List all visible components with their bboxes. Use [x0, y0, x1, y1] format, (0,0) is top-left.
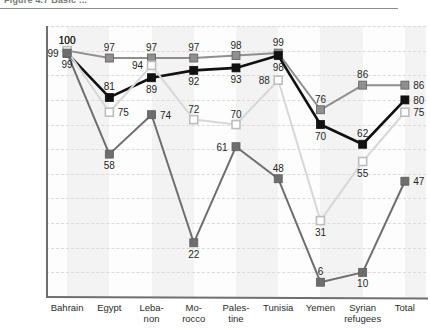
data-value-label: 97 — [188, 42, 199, 53]
data-value-label: 6 — [318, 266, 324, 277]
data-value-label: 75 — [413, 107, 424, 118]
data-value-label: 70 — [315, 130, 326, 141]
series-light-gray-marker[interactable] — [148, 61, 156, 69]
series-dark-gray-marker[interactable] — [274, 175, 282, 183]
data-value-label: 74 — [160, 109, 171, 120]
data-value-label: 99 — [48, 48, 59, 59]
series-medium-gray-marker[interactable] — [401, 81, 409, 89]
data-value-label: 98 — [230, 39, 241, 50]
series-black-marker[interactable] — [105, 93, 113, 101]
data-value-label: 31 — [315, 226, 326, 237]
data-value-label: 80 — [413, 94, 424, 105]
data-value-label: 97 — [146, 42, 157, 53]
data-value-label: 22 — [188, 248, 199, 259]
series-black-marker[interactable] — [316, 121, 324, 129]
series-medium-gray-marker[interactable] — [190, 54, 198, 62]
series-dark-gray-marker[interactable] — [105, 150, 113, 158]
series-dark-gray-marker[interactable] — [401, 177, 409, 185]
data-value-label: 92 — [188, 76, 199, 87]
data-value-label: 88 — [259, 75, 270, 86]
series-dark-gray-line — [67, 53, 405, 282]
series-black-marker[interactable] — [148, 74, 156, 82]
data-value-label: 47 — [413, 176, 424, 187]
series-light-gray-marker[interactable] — [274, 76, 282, 84]
series-dark-gray-marker[interactable] — [190, 239, 198, 247]
data-value-label: 10 — [357, 278, 368, 289]
line-chart: 0102030405060708090100110 BahrainEgyptLe… — [0, 0, 430, 329]
data-value-label: 48 — [273, 162, 284, 173]
series-light-gray-marker[interactable] — [232, 121, 240, 129]
data-value-label: 75 — [118, 107, 129, 118]
data-value-label: 70 — [230, 108, 241, 119]
data-value-label: 61 — [216, 141, 227, 152]
series-medium-gray-marker[interactable] — [316, 106, 324, 114]
series-dark-gray-marker[interactable] — [232, 143, 240, 151]
series-light-gray-marker[interactable] — [359, 158, 367, 166]
data-value-label: 89 — [146, 83, 157, 94]
series-light-gray-marker[interactable] — [401, 108, 409, 116]
series-light-gray-marker[interactable] — [105, 108, 113, 116]
data-value-label: 76 — [315, 93, 326, 104]
data-value-label: 86 — [357, 69, 368, 80]
series-light-gray-marker[interactable] — [316, 217, 324, 225]
series-dark-gray-marker[interactable] — [63, 49, 71, 57]
series-black-marker[interactable] — [232, 64, 240, 72]
series-medium-gray-marker[interactable] — [105, 54, 113, 62]
data-value-label: 55 — [357, 167, 368, 178]
series-black-marker[interactable] — [401, 96, 409, 104]
data-value-label: 58 — [104, 160, 115, 171]
data-value-label: 94 — [132, 60, 143, 71]
x-axis-tick-label: Total — [378, 302, 430, 313]
series-dark-gray-marker[interactable] — [316, 278, 324, 286]
data-value-label: 97 — [104, 42, 115, 53]
series-black-marker[interactable] — [274, 52, 282, 60]
data-value-label: 100 — [59, 34, 76, 45]
data-value-label: 62 — [357, 128, 368, 139]
series-dark-gray-marker[interactable] — [148, 111, 156, 119]
data-value-label: 99 — [273, 37, 284, 48]
data-value-label: 98 — [273, 61, 284, 72]
data-value-label: 93 — [230, 73, 241, 84]
series-medium-gray-marker[interactable] — [359, 81, 367, 89]
x-axis-tick-labels: BahrainEgyptLeba-nonMo-roccoPales-tineTu… — [46, 302, 426, 329]
series-black-marker[interactable] — [190, 66, 198, 74]
series-light-gray-marker[interactable] — [190, 116, 198, 124]
data-value-label: 99 — [62, 59, 73, 70]
data-value-label: 86 — [413, 80, 424, 91]
series-medium-gray-marker[interactable] — [232, 52, 240, 60]
data-value-label: 81 — [104, 81, 115, 92]
series-black-marker[interactable] — [359, 140, 367, 148]
data-value-label: 72 — [188, 103, 199, 114]
series-dark-gray-marker[interactable] — [359, 268, 367, 276]
